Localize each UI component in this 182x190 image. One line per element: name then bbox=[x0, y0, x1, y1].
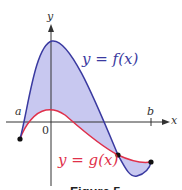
origin-label: 0 bbox=[42, 125, 49, 136]
y-axis-arrow-icon bbox=[48, 24, 54, 32]
g-curve-label: y = g(x) bbox=[58, 153, 118, 168]
y-axis-label: y bbox=[47, 11, 53, 22]
x-axis-label: x bbox=[171, 115, 177, 126]
b-label: b bbox=[147, 106, 154, 117]
f-curve-label: y = f(x) bbox=[82, 52, 138, 67]
left-endpoint-dot bbox=[17, 136, 22, 141]
right-endpoint-dot bbox=[148, 159, 153, 164]
x-axis-arrow-icon bbox=[162, 119, 170, 125]
figure-caption: Figure 5 bbox=[70, 184, 121, 190]
a-label: a bbox=[15, 106, 22, 117]
